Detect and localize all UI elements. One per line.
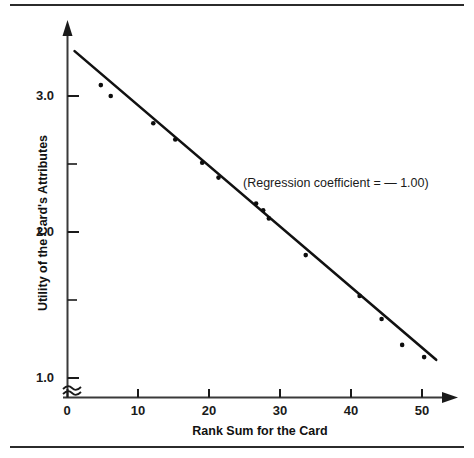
data-point xyxy=(200,160,205,165)
data-point xyxy=(400,343,405,348)
y-axis-ticks xyxy=(68,96,80,378)
regression-coefficient-annotation: (Regression coefficient = — 1.00) xyxy=(243,176,429,190)
data-point xyxy=(108,94,113,99)
data-point xyxy=(357,294,362,299)
axis-break-squiggle-icon xyxy=(63,386,81,395)
x-tick-label-50: 50 xyxy=(407,403,437,418)
figure-container: 3.0 2.0 1.0 0 10 20 30 40 50 Utility of … xyxy=(0,0,474,458)
scatter-plot xyxy=(0,0,474,458)
data-point xyxy=(422,355,427,360)
data-point xyxy=(151,121,156,126)
data-points-group xyxy=(99,83,427,360)
y-tick-label-1: 1.0 xyxy=(20,370,54,385)
data-point xyxy=(379,317,384,322)
x-tick-label-10: 10 xyxy=(123,403,153,418)
x-tick-label-0: 0 xyxy=(52,403,82,418)
x-axis-arrow-icon xyxy=(442,392,458,403)
data-point xyxy=(267,216,272,221)
data-point xyxy=(99,83,104,88)
data-point xyxy=(261,208,266,213)
y-axis-arrow-icon xyxy=(63,20,73,36)
x-tick-label-40: 40 xyxy=(336,403,366,418)
y-tick-label-3: 3.0 xyxy=(20,88,54,103)
data-point xyxy=(216,175,221,180)
y-axis-title: Utility of the Card's Attributes xyxy=(36,108,50,338)
data-point xyxy=(173,137,178,142)
x-tick-label-20: 20 xyxy=(194,403,224,418)
x-axis-ticks xyxy=(68,389,423,398)
x-axis-title: Rank Sum for the Card xyxy=(60,424,460,438)
y-axis xyxy=(63,20,73,398)
data-point xyxy=(254,201,259,206)
data-point xyxy=(303,253,308,258)
x-axis xyxy=(63,392,458,403)
x-tick-label-30: 30 xyxy=(265,403,295,418)
